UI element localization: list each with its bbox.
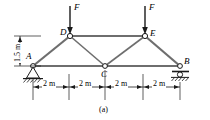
joint-label-D: D [60,28,67,37]
member-D-C [70,36,105,66]
vdim-arrow-top [18,37,22,42]
load-arrow-E [142,6,148,35]
load-label-F-D: F [74,3,80,12]
truss-members [33,36,180,66]
joint-label-C: C [101,70,107,79]
joint-label-B: B [184,57,190,66]
joint-C-marker [103,64,108,69]
dimension-label-3: 2 m [114,80,128,88]
member-E-B [145,36,180,66]
roller-support-B [171,72,189,82]
dimension-label-1: 2 m [42,80,56,88]
joint-B-marker [178,64,183,69]
load-arrow-D [67,6,73,35]
truss-joints [31,33,183,68]
member-C-E [105,36,145,66]
dimension-label-2: 2 m [78,80,92,88]
member-A-D [33,36,70,66]
truss-figure: A B C D E F F 1.5 m 2 m 2 m 2 m 2 m (a) [0,0,210,120]
joint-label-A: A [26,52,32,61]
dimension-label-4: 2 m [152,80,166,88]
joint-label-E: E [150,29,156,38]
vertical-dimension-label: 1.5 m [14,43,22,63]
figure-caption: (a) [99,106,108,114]
load-label-F-E: F [149,3,155,12]
